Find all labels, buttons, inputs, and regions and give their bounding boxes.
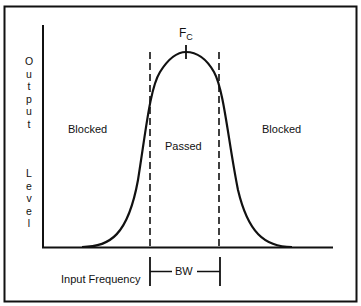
diagram-graphics	[0, 0, 361, 306]
center-frequency-subscript: C	[186, 32, 193, 42]
y-axis-label-level: L e v e l	[23, 167, 35, 230]
bandpass-diagram: O u t p u t L e v e l Blocked Passed Blo…	[0, 0, 361, 306]
center-frequency-label: FC	[179, 26, 193, 42]
y-axis-label-output: O u t p u t	[23, 55, 35, 130]
x-axis-label: Input Frequency	[61, 273, 141, 285]
bandwidth-label: BW	[175, 265, 193, 277]
region-label-blocked-left: Blocked	[68, 123, 107, 135]
region-label-passed: Passed	[165, 140, 202, 152]
outer-frame	[5, 7, 357, 302]
region-label-blocked-right: Blocked	[262, 123, 301, 135]
